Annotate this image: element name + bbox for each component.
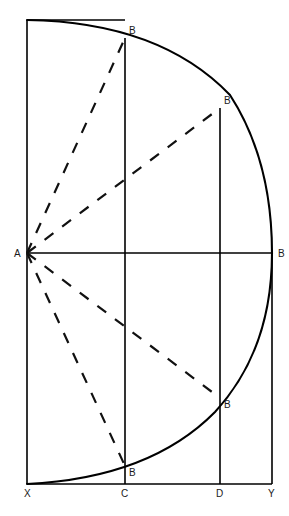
label-point-y: Y <box>268 488 275 499</box>
label-point-b-bottom-c: B <box>129 467 136 478</box>
label-point-b-right: B <box>278 248 285 259</box>
label-point-x: X <box>24 488 31 499</box>
ray-a-to-b-top-d <box>27 108 220 253</box>
construction-lines <box>27 20 272 484</box>
point-labels: A B X C D Y B B B B <box>14 25 285 499</box>
ray-a-to-b-top-c <box>27 38 125 253</box>
figure-canvas: A B X C D Y B B B B <box>0 0 289 516</box>
geometric-figure: A B X C D Y B B B B <box>0 0 289 516</box>
ray-a-to-b-bottom-d <box>27 253 220 398</box>
label-point-c: C <box>121 488 128 499</box>
semicircle-arc <box>27 20 272 484</box>
label-point-b-top-c: B <box>129 25 136 36</box>
label-point-b-top-d: B <box>224 95 231 106</box>
ray-a-to-b-bottom-c <box>27 253 125 466</box>
dashed-rays <box>27 38 220 466</box>
label-point-d: D <box>216 488 223 499</box>
label-point-a: A <box>14 248 21 259</box>
label-point-b-bottom-d: B <box>224 399 231 410</box>
